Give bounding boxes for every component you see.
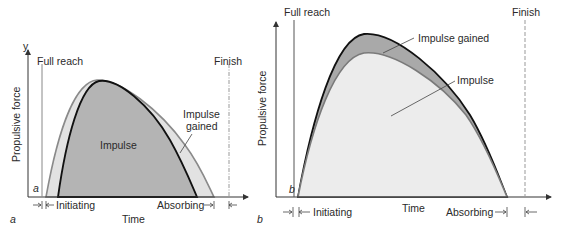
panel-b: Full reach Finish Propulsive force Impul… [256,6,551,225]
absorbing-bracket [204,201,237,209]
x-axis-label: Time [122,213,145,225]
absorbing-label: Absorbing [157,199,204,211]
panel-a: y Full reach Finish Propulsive force Imp… [10,40,248,225]
finish-label: Finish [512,6,540,18]
corner-label-b: b [289,183,295,195]
impulse-label: Impulse [457,74,494,86]
impulse-gained-label-1: Impulse [183,108,220,120]
y-axis-label: Propulsive force [10,87,22,162]
initiating-bracket [33,201,54,209]
impulse-gained-label-2: gained [186,120,218,132]
initiating-bracket [283,207,310,217]
impulse-gained-label: Impulse gained [418,32,489,44]
absorbing-label: Absorbing [446,206,493,218]
finish-label: Finish [214,55,242,67]
y-axis-letter: y [23,40,29,52]
full-reach-label: Full reach [284,6,330,18]
full-reach-label: Full reach [37,55,83,67]
impulse-label: Impulse [100,139,137,151]
x-axis-label: Time [402,202,425,214]
y-axis-label: Propulsive force [256,71,268,146]
absorbing-bracket [495,207,537,217]
corner-label-a: a [33,182,39,194]
stroke-force-diagram: y Full reach Finish Propulsive force Imp… [0,0,562,233]
initiating-label: Initiating [313,206,352,218]
initiating-label: Initiating [56,199,95,211]
panel-label-b: b [257,213,263,225]
panel-label-a: a [10,213,16,225]
